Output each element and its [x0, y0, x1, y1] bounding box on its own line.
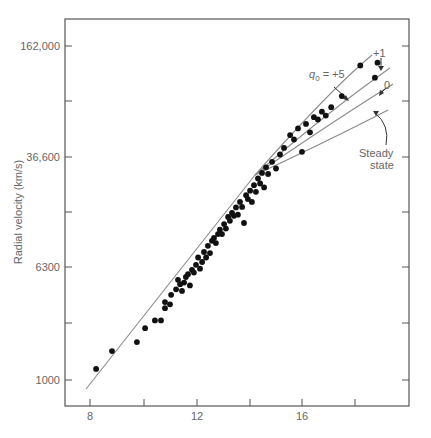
data-point: [247, 188, 253, 194]
label-state: state: [370, 159, 394, 171]
data-point: [239, 204, 245, 210]
data-point: [197, 266, 203, 272]
data-point: [233, 205, 239, 211]
data-point: [323, 113, 329, 119]
model-curves: [86, 55, 393, 389]
data-point: [173, 286, 179, 292]
data-point: [179, 288, 185, 294]
y-tick-label-162000: 162,000: [20, 40, 60, 52]
data-point: [299, 149, 305, 155]
data-point: [134, 339, 140, 345]
data-point: [263, 164, 269, 170]
hubble-diagram: 162,000 36,600 6300 1000 8 12 16 Radial …: [0, 0, 431, 438]
data-point: [201, 249, 207, 255]
data-point: [181, 280, 187, 286]
data-point: [237, 199, 243, 205]
arrow-steady: [375, 113, 387, 145]
data-point: [185, 271, 191, 277]
data-point: [357, 63, 363, 69]
x-tick-label-8: 8: [87, 410, 93, 422]
label-plus1: +1: [373, 47, 386, 59]
data-point: [223, 226, 229, 232]
data-point: [203, 255, 209, 261]
data-point: [303, 121, 309, 127]
x-tick-label-16: 16: [296, 410, 308, 422]
data-point: [142, 325, 148, 331]
data-point: [315, 117, 321, 123]
data-point: [199, 259, 205, 265]
arrow-heads: [343, 66, 384, 116]
data-point: [219, 231, 225, 237]
label-q0-plus5: q0 = +5: [309, 68, 345, 83]
data-point: [295, 125, 301, 131]
y-axis-title: Radial velocity (km/s): [12, 160, 24, 265]
data-point: [187, 283, 193, 289]
data-point: [195, 255, 201, 261]
data-point: [227, 218, 233, 224]
data-point: [291, 137, 297, 143]
data-point: [277, 152, 283, 158]
data-point: [109, 348, 115, 354]
y-tick-label-6300: 6300: [36, 261, 60, 273]
data-point: [281, 145, 287, 151]
data-point: [191, 270, 197, 276]
label-q0-value: = +5: [320, 68, 345, 80]
data-point: [235, 212, 241, 218]
data-point: [287, 132, 293, 138]
data-point: [372, 75, 378, 81]
data-point: [273, 166, 279, 172]
data-point: [168, 292, 174, 298]
label-zero: 0: [384, 79, 390, 91]
data-point: [207, 250, 213, 256]
data-point: [328, 104, 334, 110]
y-tick-label-36600: 36,600: [26, 151, 60, 163]
label-steady: Steady: [359, 147, 394, 159]
data-point: [265, 171, 271, 177]
data-point: [251, 182, 257, 188]
data-point: [241, 220, 247, 226]
data-point: [255, 176, 261, 182]
data-point: [253, 189, 259, 195]
data-point: [158, 318, 164, 324]
data-point: [375, 60, 381, 66]
data-point: [152, 318, 158, 324]
x-tick-label-12: 12: [191, 410, 203, 422]
data-point: [205, 243, 211, 249]
data-point: [162, 299, 168, 305]
data-point: [162, 305, 168, 311]
data-point: [259, 170, 265, 176]
data-point: [339, 93, 345, 99]
data-point: [93, 366, 99, 372]
y-tick-label-1000: 1000: [36, 374, 60, 386]
x-ticks: [90, 399, 355, 406]
data-point: [249, 199, 255, 205]
data-point: [167, 301, 173, 307]
data-point: [261, 185, 267, 191]
data-point: [307, 129, 313, 135]
data-point: [269, 159, 275, 165]
data-point: [213, 240, 219, 246]
